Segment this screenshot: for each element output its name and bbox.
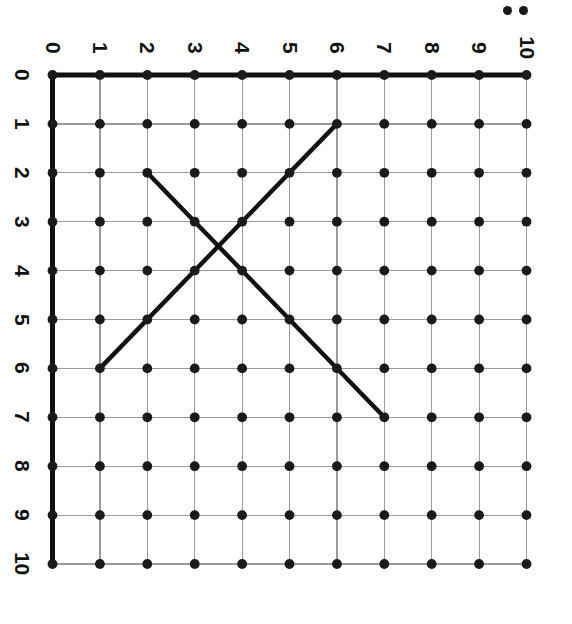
lattice-dot-1-6	[95, 364, 105, 374]
lattice-dot-7-3	[379, 217, 389, 227]
lattice-dot-8-6	[427, 364, 437, 374]
lattice-dot-6-10	[332, 559, 342, 569]
lattice-dot-1-2	[95, 168, 105, 178]
colon-dot-lower	[519, 6, 528, 15]
lattice-dot-8-8	[427, 461, 437, 471]
lattice-dot-3-5	[190, 315, 200, 325]
lattice-dot-2-6	[142, 364, 152, 374]
figure-canvas: 012345678910 012345678910	[0, 0, 572, 624]
lattice-dot-5-10	[285, 559, 295, 569]
lattice-dot-1-7	[95, 412, 105, 422]
lattice-dot-7-7	[379, 412, 389, 422]
lattice-dot-8-4	[427, 266, 437, 276]
top-axis-tick-label-4: 4	[232, 34, 253, 62]
lattice-dot-1-4	[95, 266, 105, 276]
lattice-dot-9-8	[474, 461, 484, 471]
lattice-dot-0-3	[48, 217, 58, 227]
lattice-dot-3-9	[190, 510, 200, 520]
lattice-dot-1-9	[95, 510, 105, 520]
lattice-dot-9-5	[474, 315, 484, 325]
lattice-dot-0-5	[48, 315, 58, 325]
lattice-dot-4-7	[237, 412, 247, 422]
top-axis-tick-label-8: 8	[421, 34, 442, 62]
lattice-dot-2-1	[142, 119, 152, 129]
top-axis-tick-label-3: 3	[184, 34, 205, 62]
top-axis-tick-label-0: 0	[42, 34, 63, 62]
lattice-dot-5-7	[285, 412, 295, 422]
lattice-dot-8-3	[427, 217, 437, 227]
lattice-dot-6-8	[332, 461, 342, 471]
lattice-dot-0-2	[48, 168, 58, 178]
lattice-dot-5-6	[285, 364, 295, 374]
lattice-dot-10-3	[522, 217, 532, 227]
top-axis-tick-label-10: 10	[516, 34, 537, 62]
lattice-dot-2-9	[142, 510, 152, 520]
lattice-dot-5-2	[285, 168, 295, 178]
left-axis-tick-label-1: 1	[11, 109, 32, 137]
lattice-dot-4-9	[237, 510, 247, 520]
lattice-dot-7-5	[379, 315, 389, 325]
lattice-dot-5-5	[285, 315, 295, 325]
descending-segment[interactable]	[147, 173, 384, 417]
lattice-dot-0-8	[48, 461, 58, 471]
lattice-dot-2-2	[142, 168, 152, 178]
top-axis-tick-label-5: 5	[279, 34, 300, 62]
lattice-dot-7-1	[379, 119, 389, 129]
lattice-dot-6-3	[332, 217, 342, 227]
lattice-dot-5-1	[285, 119, 295, 129]
lattice-dot-7-6	[379, 364, 389, 374]
lattice-dot-6-0	[332, 70, 342, 80]
lattice-dot-8-0	[427, 70, 437, 80]
lattice-dot-1-8	[95, 461, 105, 471]
lattice-dot-1-5	[95, 315, 105, 325]
lattice-dot-4-8	[237, 461, 247, 471]
top-axis-tick-label-6: 6	[326, 34, 347, 62]
lattice-dot-6-6	[332, 364, 342, 374]
lattice-dot-10-4	[522, 266, 532, 276]
lattice-dot-0-1	[48, 119, 58, 129]
lattice-dot-5-0	[285, 70, 295, 80]
lattice-dot-3-1	[190, 119, 200, 129]
lattice-dot-10-0	[522, 70, 532, 80]
lattice-dot-4-0	[237, 70, 247, 80]
lattice-dot-8-1	[427, 119, 437, 129]
lattice-dot-9-3	[474, 217, 484, 227]
lattice-dot-3-6	[190, 364, 200, 374]
grid-svg	[0, 0, 572, 624]
left-axis-tick-label-8: 8	[11, 452, 32, 480]
left-axis-tick-label-9: 9	[11, 501, 32, 529]
lattice-dot-10-1	[522, 119, 532, 129]
lattice-dot-3-0	[190, 70, 200, 80]
lattice-dot-9-9	[474, 510, 484, 520]
lattice-dot-0-4	[48, 266, 58, 276]
lattice-dot-5-4	[285, 266, 295, 276]
left-axis-tick-label-10: 10	[11, 550, 32, 578]
lattice-dot-10-5	[522, 315, 532, 325]
lattice-dot-3-8	[190, 461, 200, 471]
colon-dot-upper	[503, 6, 512, 15]
lattice-dot-9-0	[474, 70, 484, 80]
lattice-dot-8-2	[427, 168, 437, 178]
lattice-dot-2-5	[142, 315, 152, 325]
lattice-dot-5-3	[285, 217, 295, 227]
lattice-dot-10-8	[522, 461, 532, 471]
lattice-dot-1-10	[95, 559, 105, 569]
lattice-dot-7-2	[379, 168, 389, 178]
colon-marker-icon	[502, 4, 534, 18]
lattice-dot-6-1	[332, 119, 342, 129]
top-axis-tick-label-7: 7	[374, 34, 395, 62]
lattice-dot-10-6	[522, 364, 532, 374]
lattice-dot-0-10	[48, 559, 58, 569]
lattice-dot-6-7	[332, 412, 342, 422]
lattice-dot-2-8	[142, 461, 152, 471]
lattice-dot-8-9	[427, 510, 437, 520]
lattice-dot-9-4	[474, 266, 484, 276]
lattice-dot-0-9	[48, 510, 58, 520]
left-axis-tick-label-6: 6	[11, 354, 32, 382]
lattice-dot-9-10	[474, 559, 484, 569]
lattice-dot-0-7	[48, 412, 58, 422]
lattice-dot-6-2	[332, 168, 342, 178]
lattice-dot-10-9	[522, 510, 532, 520]
lattice-dot-3-2	[190, 168, 200, 178]
lattice-dot-1-1	[95, 119, 105, 129]
